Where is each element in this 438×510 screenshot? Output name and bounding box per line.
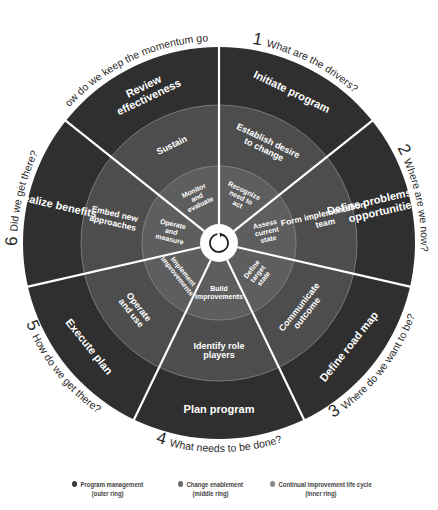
legend-label: Continual improvement life cycle xyxy=(279,481,372,488)
legend-sublabel: (outer ring) xyxy=(72,489,143,498)
legend-sublabel: (inner ring) xyxy=(270,489,372,498)
legend-dot-middle xyxy=(178,481,183,487)
improvement-wheel-diagram: Initiate programEstablish desireto chang… xyxy=(0,0,438,470)
label-line: Build xyxy=(210,285,228,292)
hub-circle xyxy=(200,224,238,262)
label-line: improvements xyxy=(195,293,243,301)
label-line: Identify role xyxy=(193,341,244,351)
legend-item-continual-improvement: Continual improvement life cycle (inner … xyxy=(270,480,372,498)
legend-dot-inner xyxy=(270,481,275,487)
legend-label: Program management xyxy=(81,481,144,488)
outer-label-4: Plan program xyxy=(184,403,255,415)
label-line: players xyxy=(203,350,235,360)
legend-dot-outer xyxy=(72,481,77,487)
step-number: 6 xyxy=(2,231,21,246)
step-number: 7 xyxy=(0,0,5,4)
legend: Program management (outer ring) Change e… xyxy=(0,480,438,510)
label-line: Plan program xyxy=(184,403,255,415)
legend-item-program-management: Program management (outer ring) xyxy=(72,480,143,498)
legend-item-change-enablement: Change enablement (middle ring) xyxy=(178,480,243,498)
legend-label: Change enablement xyxy=(187,481,244,488)
legend-sublabel: (middle ring) xyxy=(178,489,243,498)
center-hub xyxy=(200,224,238,262)
